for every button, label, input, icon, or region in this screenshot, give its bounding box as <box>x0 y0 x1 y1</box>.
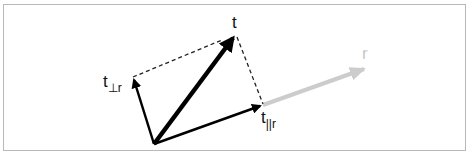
diagram-canvas: t t⊥r t||r r <box>0 0 473 157</box>
label-r: r <box>362 45 368 62</box>
label-t-par-sub: ||r <box>266 117 276 131</box>
t-vector <box>154 38 233 144</box>
label-t: t <box>232 14 237 31</box>
label-t-perp-sub: ⊥r <box>108 81 122 95</box>
label-r-text: r <box>362 44 368 63</box>
label-t-text: t <box>232 13 237 32</box>
label-t-par-r: t||r <box>261 109 276 126</box>
r-vector <box>263 69 364 105</box>
dashed-t-to-par <box>237 37 263 104</box>
t-perp-vector <box>134 80 154 144</box>
label-t-perp-r: t⊥r <box>103 73 122 90</box>
